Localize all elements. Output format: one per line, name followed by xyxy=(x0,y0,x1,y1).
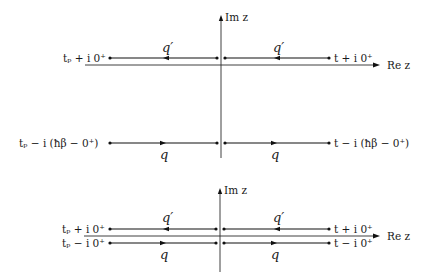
branch-label-q-prime: q′ xyxy=(162,210,173,225)
endpoint-dot xyxy=(108,56,111,59)
endpoint-dot xyxy=(214,241,217,244)
endpoint-label: t − i (ħβ − 0⁺) xyxy=(334,137,409,149)
endpoint-label: tₚ − i (ħβ − 0⁺) xyxy=(19,137,98,149)
endpoint-dot xyxy=(327,241,330,244)
endpoint-label: t − i 0⁺ xyxy=(334,237,373,249)
branch-label-q: q xyxy=(271,247,279,262)
endpoint-dot xyxy=(327,141,330,144)
endpoint-dot xyxy=(214,227,217,230)
imaginary-axis-arrow-icon xyxy=(218,188,222,194)
endpoint-dot xyxy=(108,141,111,144)
endpoint-dot xyxy=(215,56,218,59)
imaginary-axis-label: Im z xyxy=(224,184,247,196)
right-arrow-icon xyxy=(160,141,166,145)
endpoint-dot xyxy=(108,227,111,230)
imaginary-axis-label: Im z xyxy=(225,11,248,23)
real-axis-arrow-icon xyxy=(373,234,380,239)
bottom-panel: Re z Im z q′ q′ tₚ + i 0⁺ t + i 0⁺ q q t… xyxy=(62,184,410,272)
endpoint-dot xyxy=(222,241,225,244)
endpoint-label: tₚ − i 0⁺ xyxy=(62,237,105,249)
branch-label-q: q xyxy=(160,147,168,162)
top-panel: Re z Im z q′ q′ tₚ + i 0⁺ t + i 0⁺ q q t… xyxy=(19,11,410,162)
branch-label-q-prime: q′ xyxy=(162,40,173,55)
endpoint-dot xyxy=(223,56,226,59)
endpoint-label: t + i 0⁺ xyxy=(334,223,373,235)
endpoint-dot xyxy=(215,141,218,144)
branch-label-q: q xyxy=(271,147,279,162)
real-axis-label: Re z xyxy=(387,230,410,242)
right-arrow-icon xyxy=(271,241,277,245)
right-arrow-icon xyxy=(271,141,277,145)
keldysh-contour-figure: Re z Im z q′ q′ tₚ + i 0⁺ t + i 0⁺ q q t… xyxy=(0,0,434,280)
left-arrow-icon xyxy=(274,56,280,60)
real-axis-label: Re z xyxy=(387,59,410,71)
real-axis-arrow-icon xyxy=(373,63,380,68)
endpoint-dot xyxy=(327,227,330,230)
endpoint-label: t + i 0⁺ xyxy=(334,52,373,64)
left-arrow-icon xyxy=(274,227,280,231)
endpoint-dot xyxy=(223,141,226,144)
right-arrow-icon xyxy=(160,241,166,245)
branch-label-q: q xyxy=(160,247,168,262)
endpoint-dot xyxy=(327,56,330,59)
endpoint-dot xyxy=(222,227,225,230)
branch-label-q-prime: q′ xyxy=(273,40,284,55)
left-arrow-icon xyxy=(163,227,169,231)
endpoint-label: tₚ + i 0⁺ xyxy=(63,52,106,64)
endpoint-label: tₚ + i 0⁺ xyxy=(62,223,105,235)
branch-label-q-prime: q′ xyxy=(273,210,284,225)
imaginary-axis-arrow-icon xyxy=(219,15,223,21)
left-arrow-icon xyxy=(163,56,169,60)
endpoint-dot xyxy=(108,241,111,244)
